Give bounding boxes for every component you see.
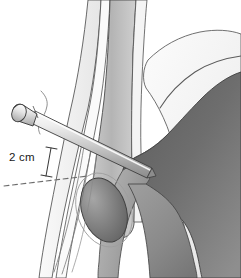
measurement-label: 2 cm xyxy=(9,151,35,163)
anatomy-illustration: 2 cm xyxy=(0,0,241,278)
anatomical-figure: 2 cm xyxy=(0,0,241,278)
